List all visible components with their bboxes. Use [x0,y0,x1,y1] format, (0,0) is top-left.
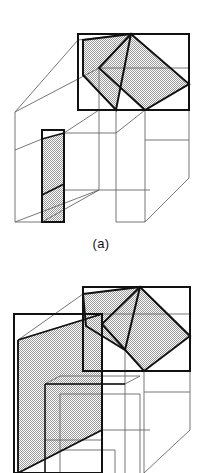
diagram-b-svg [0,272,202,473]
panel-a-caption: (a) [0,236,202,251]
figure-panel-a [0,0,202,232]
diagram-a-svg [0,0,202,232]
figure-panel-b [0,272,202,473]
figure-root: (a) [0,0,202,473]
door-jamb-strip-fill [42,133,64,222]
